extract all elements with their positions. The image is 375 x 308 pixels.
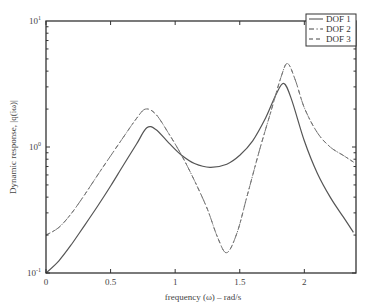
x-tick-label: 2 <box>302 277 307 287</box>
x-axis-ticks: 00.511.52 <box>44 21 307 287</box>
y-tick-label: 10-1 <box>27 267 41 278</box>
series-dof-3 <box>46 63 353 252</box>
legend-label: DOF 3 <box>326 34 351 44</box>
x-tick-label: 0.5 <box>105 277 117 287</box>
legend-label: DOF 1 <box>326 14 351 24</box>
y-axis-label: Dynamic response, |q(iω)| <box>8 100 18 194</box>
x-tick-label: 0 <box>44 277 49 287</box>
frequency-response-chart: 00.511.52 10110010-1 frequency (ω) – rad… <box>0 0 375 308</box>
x-tick-label: 1 <box>173 277 178 287</box>
series-layer <box>46 63 353 273</box>
series-dof-2 <box>46 63 353 252</box>
x-tick-label: 1.5 <box>234 277 246 287</box>
legend: DOF 1DOF 2DOF 3 <box>306 14 356 46</box>
y-tick-label: 100 <box>29 141 41 152</box>
legend-label: DOF 2 <box>326 24 351 34</box>
series-dof-1 <box>46 83 353 273</box>
x-axis-label: frequency (ω) – rad/s <box>165 292 242 302</box>
y-tick-label: 101 <box>29 15 41 26</box>
axes-frame <box>46 21 356 273</box>
